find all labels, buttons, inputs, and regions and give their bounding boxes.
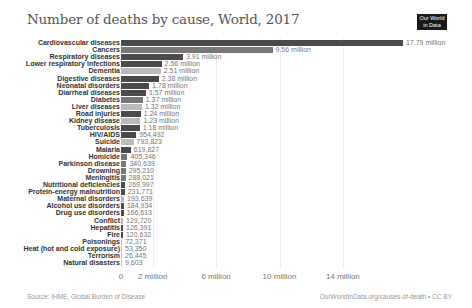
bar[interactable]	[121, 154, 127, 160]
owid-logo[interactable]: Our Worldin Data	[417, 14, 447, 30]
bar[interactable]	[121, 125, 140, 131]
chart-title: Number of deaths by cause, World, 2017	[27, 11, 299, 27]
bar-row[interactable]: Tuberculosis1.18 million	[0, 125, 472, 132]
bar[interactable]	[121, 168, 126, 174]
bar[interactable]	[121, 203, 124, 209]
value-label: 9,603	[125, 259, 143, 267]
bar[interactable]	[121, 90, 146, 96]
logo-line-2: in Data	[423, 22, 440, 28]
bar-row[interactable]: Malaria619,827	[0, 147, 472, 154]
bar[interactable]	[121, 40, 403, 46]
bar[interactable]	[121, 239, 122, 245]
bar[interactable]	[121, 139, 134, 145]
bar[interactable]	[121, 161, 126, 167]
bar[interactable]	[121, 182, 125, 188]
bar[interactable]	[121, 104, 142, 110]
bar[interactable]	[121, 111, 141, 117]
bar-row[interactable]: Drowning295,210	[0, 168, 472, 175]
bar-row[interactable]: Diarrheal diseases1.57 million	[0, 90, 472, 97]
bar-row[interactable]: Lower respiratory infections2.56 million	[0, 61, 472, 68]
bar[interactable]	[121, 260, 122, 266]
bar-row[interactable]: Drug use disorders166,613	[0, 210, 472, 217]
logo-line-1: Our World	[420, 15, 445, 21]
bar[interactable]	[121, 196, 124, 202]
bar-row[interactable]: Conflict129,720	[0, 218, 472, 225]
value-label: 9.56 million	[276, 46, 311, 54]
bar[interactable]	[121, 147, 131, 153]
bar[interactable]	[121, 253, 122, 259]
bar[interactable]	[121, 175, 126, 181]
bar-row[interactable]: Suicide793,823	[0, 139, 472, 146]
bar[interactable]	[121, 97, 143, 103]
bar[interactable]	[121, 232, 123, 238]
bar-row[interactable]: HIV/AIDS954,492	[0, 132, 472, 139]
bar-row[interactable]: Kidney disease1.23 million	[0, 118, 472, 125]
bar[interactable]	[121, 218, 123, 224]
bar[interactable]	[121, 76, 159, 82]
bar[interactable]	[121, 225, 123, 231]
value-label: 17.79 million	[406, 39, 445, 47]
bar-row[interactable]: Liver diseases1.32 million	[0, 104, 472, 111]
bar-row[interactable]: Parkinson disease340,639	[0, 161, 472, 168]
bar[interactable]	[121, 54, 183, 60]
axis-tick-label: 10 million	[263, 272, 297, 281]
source-url[interactable]: OurWorldInData.org/causes-of-death • CC …	[320, 293, 452, 300]
bar[interactable]	[121, 189, 125, 195]
axis-tick-label: 0	[119, 272, 123, 281]
bar[interactable]	[121, 47, 273, 53]
axis-tick-label: 14 million	[326, 272, 360, 281]
bar-row[interactable]: Heat (hot and cold exposure)53,350	[0, 246, 472, 253]
bar-row[interactable]: Natural disasters9,603	[0, 260, 472, 267]
bar[interactable]	[121, 83, 149, 89]
bar-row[interactable]: Cardiovascular diseases17.79 million	[0, 40, 472, 47]
bar[interactable]	[121, 68, 161, 74]
axis-tick-label: 6 million	[201, 272, 230, 281]
bar-row[interactable]: Fire120,632	[0, 232, 472, 239]
bar[interactable]	[121, 210, 124, 216]
axis-tick-label: 2 million	[138, 272, 167, 281]
bar-row[interactable]: Hepatitis126,391	[0, 225, 472, 232]
bar[interactable]	[121, 61, 162, 67]
bar[interactable]	[121, 246, 122, 252]
category-label: Natural disasters	[63, 259, 120, 267]
bar[interactable]	[121, 118, 140, 124]
source-note: Source: IHME, Global Burden of Disease	[27, 293, 145, 300]
bar[interactable]	[121, 132, 136, 138]
